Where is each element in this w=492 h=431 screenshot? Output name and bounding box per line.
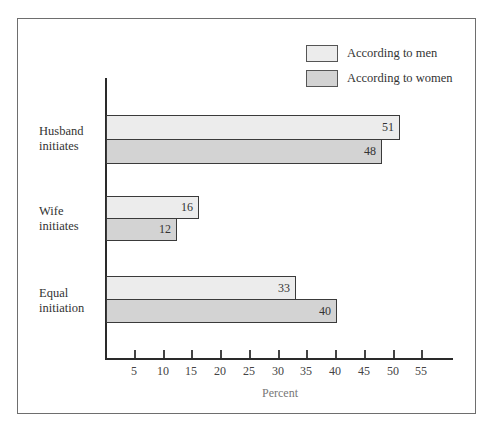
x-axis <box>105 358 453 360</box>
bar-value: 16 <box>181 200 198 215</box>
bar-value: 12 <box>159 222 176 237</box>
x-tick <box>220 350 222 358</box>
x-axis-label: Percent <box>230 386 330 401</box>
x-tick <box>393 350 395 358</box>
bar-husband-men: 51 <box>106 115 400 140</box>
x-tick <box>163 350 165 358</box>
legend-label-women: According to women <box>347 71 453 86</box>
bar-equal-men: 33 <box>106 276 296 300</box>
category-label-husband: Husband initiates <box>39 124 83 154</box>
legend-item-women: According to women <box>306 70 453 87</box>
bar-wife-women: 12 <box>106 218 177 241</box>
x-tick-label: 55 <box>406 364 436 379</box>
x-tick-label: 20 <box>205 364 235 379</box>
category-label-line: Equal <box>39 286 84 301</box>
x-tick <box>335 350 337 358</box>
bar-value: 33 <box>278 281 295 296</box>
x-tick <box>249 350 251 358</box>
x-tick <box>306 350 308 358</box>
bar-husband-women: 48 <box>106 139 382 164</box>
category-label-wife: Wife initiates <box>39 204 79 234</box>
x-tick-label: 45 <box>349 364 379 379</box>
x-tick-label: 25 <box>234 364 264 379</box>
bar-value: 51 <box>382 120 399 135</box>
category-label-line: initiates <box>39 219 79 234</box>
x-tick-label: 50 <box>378 364 408 379</box>
x-tick <box>278 350 280 358</box>
legend-swatch-men <box>306 45 338 62</box>
x-tick-label: 5 <box>119 364 149 379</box>
category-label-line: Husband <box>39 124 83 139</box>
category-label-equal: Equal initiation <box>39 286 84 316</box>
bar-value: 40 <box>319 304 336 319</box>
x-tick-label: 30 <box>263 364 293 379</box>
category-label-line: Wife <box>39 204 79 219</box>
x-tick <box>364 350 366 358</box>
bar-equal-women: 40 <box>106 299 337 323</box>
x-tick-label: 15 <box>176 364 206 379</box>
x-tick-label: 10 <box>148 364 178 379</box>
bar-value: 48 <box>364 144 381 159</box>
x-tick-label: 35 <box>291 364 321 379</box>
x-tick <box>191 350 193 358</box>
legend-label-men: According to men <box>347 46 437 61</box>
legend-item-men: According to men <box>306 45 437 62</box>
x-tick <box>134 350 136 358</box>
category-label-line: initiation <box>39 301 84 316</box>
x-tick-label: 40 <box>320 364 350 379</box>
category-label-line: initiates <box>39 139 83 154</box>
x-tick <box>421 350 423 358</box>
bar-wife-men: 16 <box>106 196 199 219</box>
legend-swatch-women <box>306 70 338 87</box>
